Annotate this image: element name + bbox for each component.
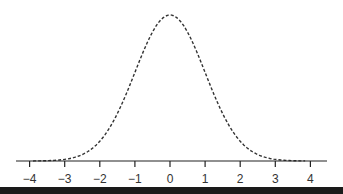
x-tick-label: −3 bbox=[58, 172, 72, 186]
density-curve bbox=[33, 15, 305, 161]
x-tick-label: 1 bbox=[202, 172, 209, 186]
x-axis-tick-labels: −4−3−2−101234 bbox=[23, 172, 314, 186]
normal-distribution-chart: −4−3−2−101234 bbox=[0, 0, 343, 194]
x-tick-label: 2 bbox=[237, 172, 244, 186]
x-tick-label: −2 bbox=[93, 172, 107, 186]
x-tick-label: 4 bbox=[307, 172, 314, 186]
x-tick-label: −1 bbox=[128, 172, 142, 186]
x-tick-label: 3 bbox=[272, 172, 279, 186]
x-tick-label: 0 bbox=[167, 172, 174, 186]
x-axis-ticks bbox=[30, 161, 311, 167]
bottom-border-bar bbox=[0, 187, 343, 194]
x-tick-label: −4 bbox=[23, 172, 37, 186]
